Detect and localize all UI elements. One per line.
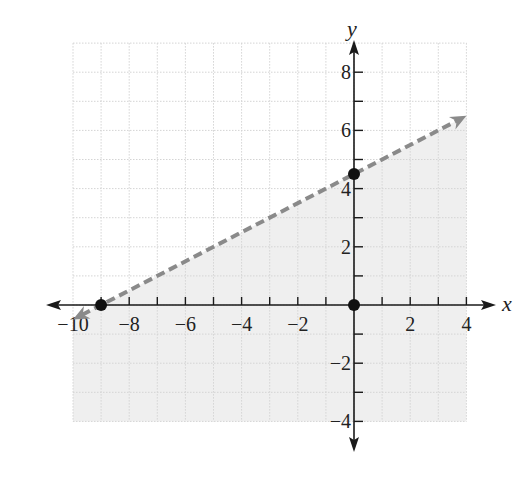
x-tick-label: −8 [119, 313, 140, 335]
y-tick-label: 4 [341, 178, 351, 200]
point-origin [348, 299, 360, 311]
y-tick-label: −4 [330, 410, 351, 432]
y-tick-label: 6 [341, 119, 351, 141]
coordinate-plane: −10−8−6−4−224−4−22468 x y [0, 0, 532, 477]
point-x-intercept [95, 299, 107, 311]
x-axis-label: x [501, 291, 512, 316]
x-tick-label: −6 [175, 313, 196, 335]
x-tick-label: 2 [405, 313, 415, 335]
y-axis-label: y [345, 16, 357, 41]
y-tick-label: 8 [341, 61, 351, 83]
x-tick-label: −4 [231, 313, 252, 335]
x-tick-label: −2 [287, 313, 308, 335]
x-tick-label: 4 [461, 313, 471, 335]
point-y-intercept [348, 168, 360, 180]
y-tick-label: −2 [330, 352, 351, 374]
y-tick-label: 2 [341, 236, 351, 258]
